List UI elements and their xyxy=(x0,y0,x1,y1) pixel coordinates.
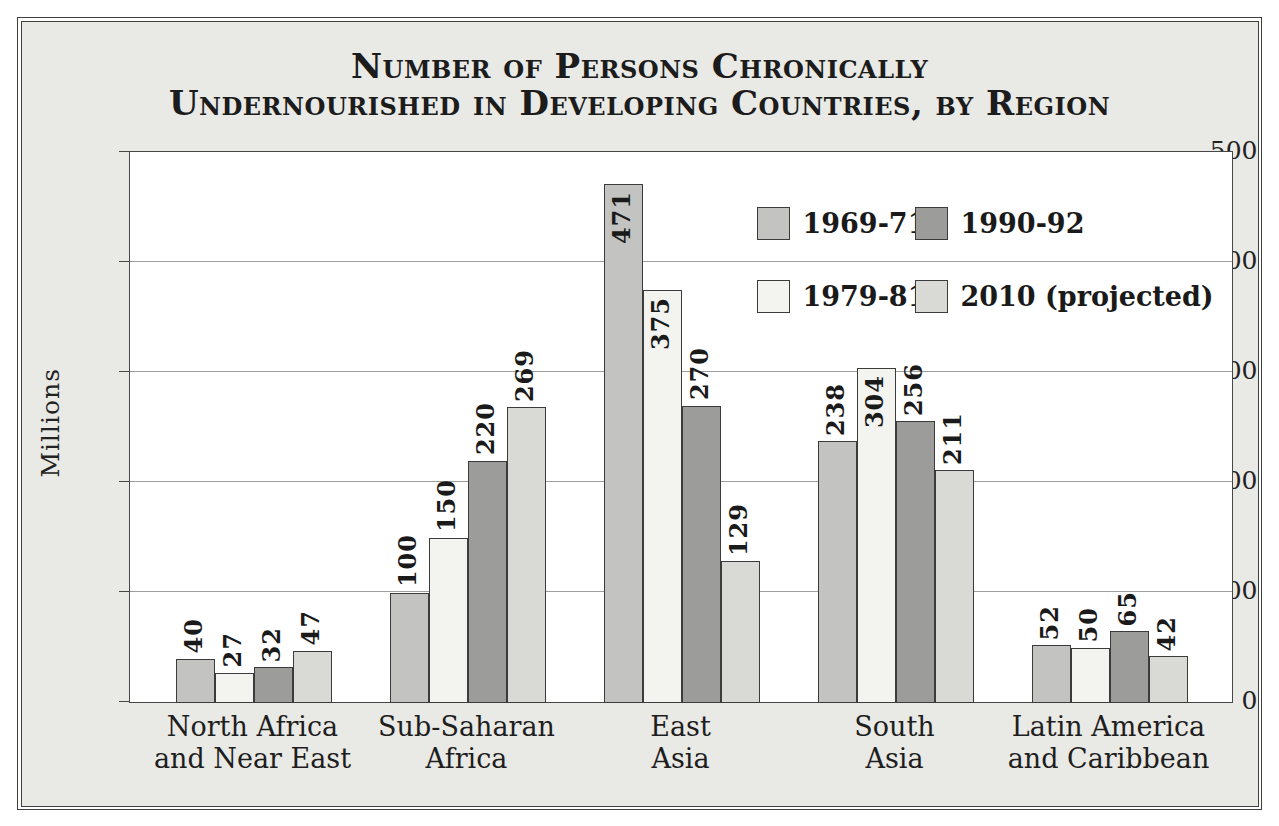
bar-group-2: 471375270129 xyxy=(604,152,760,702)
bar-value-label: 256 xyxy=(901,363,927,416)
bar-value-label: 52 xyxy=(1037,605,1063,640)
bar-value-label: 375 xyxy=(648,297,674,350)
bar-slot: 42 xyxy=(1149,152,1188,702)
bar-value-label: 238 xyxy=(823,383,849,436)
category-label-0: North Africaand Near East xyxy=(133,711,373,775)
chart-title-line2: Undernourished in Developing Countries, … xyxy=(22,85,1258,122)
bar-slot: 100 xyxy=(390,152,429,702)
y-axis-tick-400 xyxy=(119,261,129,262)
category-label-line1: South xyxy=(775,711,1015,743)
bar-1990-92-latin-america xyxy=(1110,631,1149,703)
bar-value-label: 471 xyxy=(609,191,635,244)
chart-outer-frame: Number of Persons Chronically Undernouri… xyxy=(17,17,1262,810)
bar-slot: 150 xyxy=(429,152,468,702)
bar-2010 (projected)-latin-america xyxy=(1149,656,1188,702)
bar-1969-71-sub-saharan xyxy=(390,593,429,703)
bar-1990-92-east xyxy=(682,406,721,703)
bar-slot: 256 xyxy=(896,152,935,702)
bar-value-label: 50 xyxy=(1076,607,1102,642)
category-label-line1: North Africa xyxy=(133,711,373,743)
bar-value-label: 150 xyxy=(434,479,460,532)
bar-value-label: 220 xyxy=(473,402,499,455)
bar-1969-71-latin-america xyxy=(1032,645,1071,702)
bar-value-label: 42 xyxy=(1154,616,1180,651)
bar-value-label: 47 xyxy=(298,610,324,645)
bar-slot: 32 xyxy=(254,152,293,702)
y-axis-tick-0 xyxy=(119,701,129,702)
bar-2010 (projected)-sub-saharan xyxy=(507,407,546,703)
bar-slot: 50 xyxy=(1071,152,1110,702)
bar-value-label: 270 xyxy=(687,347,713,400)
bar-1979-81-latin-america xyxy=(1071,648,1110,703)
category-label-line1: Latin America xyxy=(989,711,1229,743)
bar-slot: 52 xyxy=(1032,152,1071,702)
category-label-3: SouthAsia xyxy=(775,711,1015,775)
bar-slot: 471 xyxy=(604,152,643,702)
bar-1990-92-sub-saharan xyxy=(468,461,507,703)
y-axis-title: Millions xyxy=(36,368,65,478)
bar-1969-71-north-africa xyxy=(176,659,215,703)
chart-title: Number of Persons Chronically Undernouri… xyxy=(22,48,1258,122)
bar-group-4: 52506542 xyxy=(1032,152,1188,702)
bar-value-label: 27 xyxy=(220,632,246,667)
bar-1979-81-east xyxy=(643,290,682,703)
y-axis-tick-100 xyxy=(119,591,129,592)
bar-1979-81-sub-saharan xyxy=(429,538,468,703)
bar-value-label: 100 xyxy=(395,534,421,587)
category-label-line2: Africa xyxy=(347,743,587,775)
category-label-line2: and Near East xyxy=(133,743,373,775)
category-label-line1: East xyxy=(561,711,801,743)
category-label-2: EastAsia xyxy=(561,711,801,775)
bar-1969-71-east xyxy=(604,184,643,702)
legend-swatch-icon xyxy=(757,207,790,240)
bar-slot: 220 xyxy=(468,152,507,702)
y-axis-tick-300 xyxy=(119,371,129,372)
bar-slot: 375 xyxy=(643,152,682,702)
y-axis-tick-500 xyxy=(119,151,129,152)
bar-2010 (projected)-south xyxy=(935,470,974,702)
bar-group-0: 40273247 xyxy=(176,152,332,702)
bar-1990-92-south xyxy=(896,421,935,703)
bar-group-3: 238304256211 xyxy=(818,152,974,702)
category-label-4: Latin Americaand Caribbean xyxy=(989,711,1229,775)
bar-slot: 304 xyxy=(857,152,896,702)
bar-value-label: 269 xyxy=(512,349,538,402)
bar-slot: 27 xyxy=(215,152,254,702)
bar-slot: 40 xyxy=(176,152,215,702)
bar-2010 (projected)-north-africa xyxy=(293,651,332,703)
bar-slot: 238 xyxy=(818,152,857,702)
bar-slot: 47 xyxy=(293,152,332,702)
bar-2010 (projected)-east xyxy=(721,561,760,703)
chart-title-line1: Number of Persons Chronically xyxy=(22,48,1258,85)
category-label-line1: Sub-Saharan xyxy=(347,711,587,743)
bar-slot: 270 xyxy=(682,152,721,702)
chart-page: Number of Persons Chronically Undernouri… xyxy=(0,0,1279,826)
legend-swatch-icon xyxy=(757,280,790,313)
bar-slot: 129 xyxy=(721,152,760,702)
bar-slot: 269 xyxy=(507,152,546,702)
category-label-line2: Asia xyxy=(775,743,1015,775)
bar-1979-81-north-africa xyxy=(215,673,254,703)
bar-slot: 65 xyxy=(1110,152,1149,702)
bar-slot: 211 xyxy=(935,152,974,702)
y-axis-tick-200 xyxy=(119,481,129,482)
bar-1969-71-south xyxy=(818,441,857,703)
bar-group-1: 100150220269 xyxy=(390,152,546,702)
bar-value-label: 65 xyxy=(1115,591,1141,626)
bar-value-label: 211 xyxy=(940,412,966,465)
plot-area: 1969-711990-921979-812010 (projected) 40… xyxy=(129,151,1233,703)
bar-value-label: 129 xyxy=(726,503,752,556)
bar-value-label: 304 xyxy=(862,375,888,428)
chart-background: Number of Persons Chronically Undernouri… xyxy=(21,21,1259,807)
bar-value-label: 32 xyxy=(259,627,285,662)
bar-1990-92-north-africa xyxy=(254,667,293,702)
category-label-1: Sub-SaharanAfrica xyxy=(347,711,587,775)
bar-value-label: 40 xyxy=(181,618,207,653)
category-label-line2: and Caribbean xyxy=(989,743,1229,775)
category-label-line2: Asia xyxy=(561,743,801,775)
